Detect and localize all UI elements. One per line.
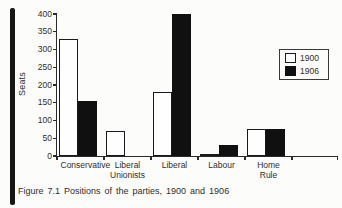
y-axis-tick	[53, 13, 57, 14]
y-tick-label: 200	[26, 80, 52, 91]
bar-liberal-unionists-1900	[106, 131, 125, 156]
x-axis-tick	[56, 156, 57, 160]
bar-labour-1906	[219, 145, 238, 156]
y-axis-tick	[53, 84, 57, 85]
bar-labour-1900	[200, 154, 219, 156]
y-tick-label: 0	[26, 151, 52, 162]
y-tick-label: 50	[26, 133, 52, 144]
x-axis-tick	[150, 156, 151, 160]
legend-swatch-1906	[285, 66, 296, 76]
y-tick-label: 300	[26, 44, 52, 55]
y-tick-label: 100	[26, 115, 52, 126]
legend-swatch-1900	[285, 53, 296, 63]
x-category-label: Liberal Unionists	[108, 161, 148, 180]
legend-item-1900: 1900	[285, 53, 328, 63]
scanned-figure-page: Seats 050100150200250300350400Conservati…	[0, 0, 342, 208]
y-tick-label: 150	[26, 97, 52, 108]
y-axis-tick	[53, 120, 57, 121]
legend-label-1900: 1900	[300, 53, 319, 63]
y-tick-label: 250	[26, 62, 52, 73]
x-axis-end-tick	[337, 156, 338, 160]
bar-chart-plot-area: 050100150200250300350400ConservativeLibe…	[56, 14, 338, 157]
x-axis-tick	[197, 156, 198, 160]
legend-label-1906: 1906	[300, 66, 319, 76]
bar-liberal-1906	[172, 14, 191, 156]
y-axis-tick	[53, 67, 57, 68]
book-spine-scan-band	[10, 8, 15, 205]
bar-conservative-1906	[78, 101, 97, 156]
bar-conservative-1900	[59, 39, 78, 156]
y-tick-label: 350	[26, 26, 52, 37]
x-category-label: Labour	[202, 161, 242, 171]
y-tick-label: 400	[26, 9, 52, 20]
x-category-label: Home Rule	[249, 161, 289, 180]
x-axis-tick	[244, 156, 245, 160]
legend: 1900 1906	[279, 49, 329, 80]
y-axis-tick	[53, 102, 57, 103]
bar-home-rule-1900	[247, 129, 266, 156]
bar-liberal-1900	[153, 92, 172, 156]
x-category-label: Liberal	[155, 161, 195, 171]
y-axis-tick	[53, 138, 57, 139]
x-axis-tick	[103, 156, 104, 160]
x-axis-tick	[291, 156, 292, 160]
y-axis-tick	[53, 31, 57, 32]
figure-caption: Figure 7.1 Positions of the parties, 190…	[18, 186, 229, 196]
bar-home-rule-1906	[266, 129, 285, 156]
y-axis-tick	[53, 49, 57, 50]
x-category-label: Conservative	[61, 161, 101, 171]
legend-item-1906: 1906	[285, 66, 328, 76]
